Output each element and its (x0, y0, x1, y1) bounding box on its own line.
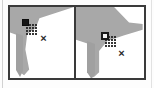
x-cursor-left[interactable]: × (38, 33, 49, 44)
x-cursor-right[interactable]: × (116, 48, 127, 59)
figure-frame: × × (8, 5, 146, 80)
region-tail-left (16, 33, 23, 77)
right-edge-rule (151, 0, 152, 88)
panel-right[interactable]: × (76, 7, 144, 78)
marker-hollow-right[interactable] (101, 32, 109, 40)
region-tail-right (87, 41, 95, 78)
marker-solid-left[interactable] (22, 19, 29, 26)
left-edge-rule (2, 0, 3, 88)
figure-root: × × (0, 0, 154, 88)
panel-left[interactable]: × (10, 7, 76, 78)
